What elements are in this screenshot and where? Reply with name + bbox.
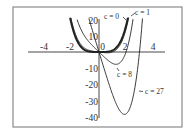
chart: -4 -2 0 2 4 20 10 -10 -20 -30 -40 c = 0 … [0, 0, 188, 133]
x-tick-label: 0 [100, 42, 105, 52]
x-tick-label: -4 [40, 42, 48, 52]
y-tick-label: -10 [85, 64, 98, 74]
label-c27: c = 27 [145, 87, 164, 96]
y-tick-labels: 20 10 -10 -20 -30 -40 [85, 16, 98, 123]
y-tick-label: -40 [85, 113, 98, 123]
y-tick-label: 20 [89, 16, 99, 26]
label-c1: c = 1 [135, 8, 150, 17]
x-tick-label: -2 [66, 42, 74, 52]
curves [70, 17, 142, 114]
y-tick-label: -20 [85, 80, 98, 90]
pointer-c27 [139, 91, 143, 92]
x-tick-label: 4 [151, 42, 156, 52]
pointer-c0 [123, 17, 126, 20]
y-tick-label: -30 [85, 97, 98, 107]
label-c0: c = 0 [104, 12, 119, 21]
label-c8: c = 8 [117, 70, 132, 79]
